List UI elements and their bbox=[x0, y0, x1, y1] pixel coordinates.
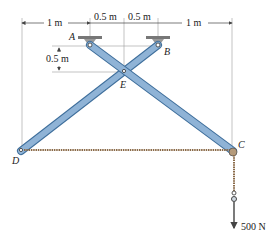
member-ac bbox=[90, 45, 233, 151]
label-a: A bbox=[68, 31, 76, 42]
label-d: D bbox=[11, 155, 20, 166]
pin-b bbox=[156, 43, 160, 47]
dim-1m-right: 1 m bbox=[186, 17, 202, 28]
frame-diagram: 1 m 0.5 m 0.5 m 1 m 0.5 m 500 N A B E C … bbox=[0, 0, 278, 246]
load-label: 500 N bbox=[241, 221, 266, 232]
dim-0.5m-vertical: 0.5 m bbox=[46, 53, 69, 64]
diagram-canvas: 1 m 0.5 m 0.5 m 1 m 0.5 m 500 N A B E C … bbox=[0, 0, 278, 246]
label-c: C bbox=[238, 139, 245, 150]
label-b: B bbox=[164, 46, 170, 57]
pin-e bbox=[122, 69, 125, 72]
pin-a bbox=[88, 43, 92, 47]
member-bd bbox=[21, 45, 158, 151]
dim-0.5m-b: 0.5 m bbox=[128, 11, 151, 22]
dim-1m-left: 1 m bbox=[47, 17, 63, 28]
hook-ring bbox=[232, 191, 236, 195]
label-e: E bbox=[119, 79, 126, 90]
dim-0.5m-a: 0.5 m bbox=[94, 11, 117, 22]
hook-ring-lower bbox=[232, 197, 237, 202]
pin-d bbox=[19, 148, 22, 151]
pulley-c bbox=[229, 148, 237, 156]
